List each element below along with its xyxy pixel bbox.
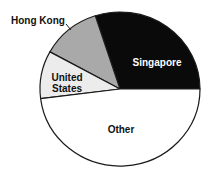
- label-united-states-line1: United: [51, 72, 82, 83]
- label-other: Other: [108, 124, 135, 135]
- pie-chart: Hong Kong Singapore United States Other: [0, 0, 210, 180]
- label-united-states-line2: States: [52, 83, 82, 94]
- label-singapore: Singapore: [133, 57, 182, 68]
- label-hong-kong: Hong Kong: [11, 15, 65, 26]
